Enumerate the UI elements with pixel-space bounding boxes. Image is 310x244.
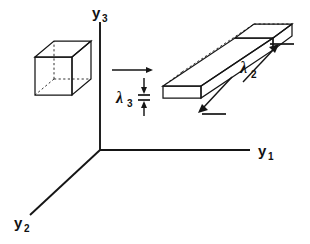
y2-axis-label-subscript: 2 <box>24 223 30 234</box>
lambda3-up-arrow-head <box>141 101 147 108</box>
lambda3-label: λ <box>115 89 123 106</box>
transformation-arrow-head <box>146 67 153 73</box>
y2-axis-label: y <box>14 214 23 231</box>
y3-axis-label-subscript: 3 <box>102 13 108 24</box>
lambda2-label: λ <box>239 59 247 76</box>
deformed-slab <box>163 24 292 98</box>
lambda2-lower-arrow-head <box>198 104 208 113</box>
undeformed-cube <box>35 41 91 95</box>
lambda3-annotation: λ 3 <box>115 78 150 116</box>
y2-axis-line <box>30 150 100 215</box>
transformation-arrow <box>112 67 153 73</box>
lambda3-label-subscript: 3 <box>127 98 133 109</box>
y3-axis-label: y <box>92 4 101 21</box>
y1-axis-label: y <box>258 142 267 159</box>
cube-silhouette-fill <box>35 41 91 95</box>
y1-axis-label-subscript: 1 <box>268 151 274 162</box>
figure-canvas: y 1 y 2 y 3 <box>0 0 310 244</box>
lambda3-down-arrow-head <box>141 87 147 94</box>
deformation-diagram: y 1 y 2 y 3 <box>0 0 310 244</box>
slab-silhouette-fill <box>163 24 292 98</box>
